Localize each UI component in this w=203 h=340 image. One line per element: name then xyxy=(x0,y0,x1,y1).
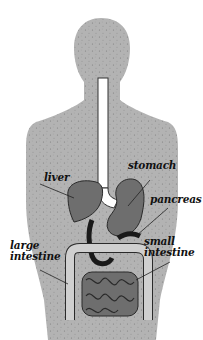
digestive-system-diagram: stomach liver pancreas large intestine s… xyxy=(0,0,203,340)
label-small-intestine: small intestine xyxy=(144,236,194,258)
esophagus xyxy=(98,78,108,188)
label-stomach: stomach xyxy=(128,160,176,171)
label-large-intestine: large intestine xyxy=(10,240,60,262)
label-liver: liver xyxy=(44,172,69,183)
label-pancreas: pancreas xyxy=(150,194,202,205)
